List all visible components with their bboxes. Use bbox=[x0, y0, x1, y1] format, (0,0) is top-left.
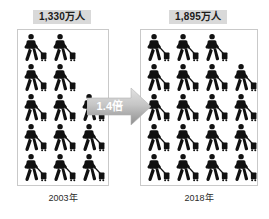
traveler-with-suitcase-icon bbox=[230, 63, 258, 92]
traveler-with-suitcase-icon bbox=[201, 123, 230, 152]
pictogram-row bbox=[18, 123, 108, 152]
traveler-with-suitcase-icon bbox=[20, 33, 49, 62]
pictogram-row bbox=[141, 93, 257, 122]
traveler-with-suitcase-icon bbox=[78, 123, 107, 152]
traveler-with-suitcase-icon bbox=[143, 33, 172, 62]
traveler-with-suitcase-icon bbox=[230, 153, 258, 182]
traveler-with-suitcase-icon bbox=[20, 63, 49, 92]
growth-arrow-label: 1.4倍 bbox=[87, 99, 133, 113]
pictogram-infographic: 1,330万人 1,895万人 1.4倍 2003年 2018年 bbox=[0, 0, 269, 219]
pictogram-row bbox=[141, 33, 257, 62]
traveler-with-suitcase-icon bbox=[49, 63, 78, 92]
count-label-2018: 1,895万人 bbox=[169, 10, 227, 24]
traveler-with-suitcase-icon bbox=[49, 93, 78, 122]
traveler-with-suitcase-icon bbox=[201, 33, 230, 62]
traveler-with-suitcase-icon bbox=[201, 153, 230, 182]
pictogram-row bbox=[18, 153, 108, 182]
traveler-with-suitcase-icon bbox=[230, 123, 258, 152]
pictogram-panel-2018 bbox=[140, 29, 258, 186]
traveler-with-suitcase-icon bbox=[20, 153, 49, 182]
traveler-with-suitcase-icon bbox=[172, 153, 201, 182]
pictogram-row bbox=[141, 153, 257, 182]
traveler-with-suitcase-icon bbox=[201, 63, 230, 92]
traveler-with-suitcase-icon bbox=[201, 93, 230, 122]
traveler-with-suitcase-icon bbox=[20, 93, 49, 122]
traveler-with-suitcase-icon bbox=[172, 63, 201, 92]
traveler-with-suitcase-icon bbox=[49, 153, 78, 182]
pictogram-grid-2018 bbox=[141, 30, 257, 185]
traveler-with-suitcase-icon bbox=[143, 153, 172, 182]
pictogram-row bbox=[141, 123, 257, 152]
traveler-with-suitcase-icon bbox=[49, 33, 78, 62]
pictogram-row bbox=[141, 63, 257, 92]
traveler-with-suitcase-icon bbox=[172, 33, 201, 62]
traveler-with-suitcase-icon bbox=[143, 123, 172, 152]
traveler-with-suitcase-icon bbox=[49, 123, 78, 152]
pictogram-row bbox=[18, 33, 108, 62]
count-label-2003: 1,330万人 bbox=[33, 10, 91, 24]
growth-arrow: 1.4倍 bbox=[87, 87, 151, 126]
traveler-with-suitcase-icon bbox=[78, 153, 107, 182]
traveler-with-suitcase-icon bbox=[20, 123, 49, 152]
year-caption-2003: 2003年 bbox=[17, 192, 109, 204]
traveler-with-suitcase-icon bbox=[172, 93, 201, 122]
year-caption-2018: 2018年 bbox=[140, 192, 258, 204]
traveler-with-suitcase-icon bbox=[230, 93, 258, 122]
traveler-with-suitcase-icon bbox=[172, 123, 201, 152]
